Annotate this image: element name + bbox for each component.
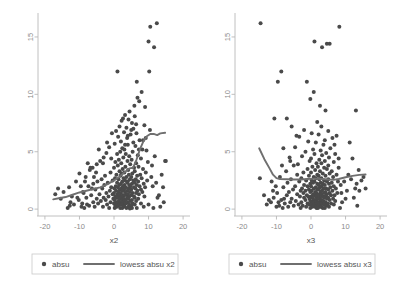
data-point [102,155,106,159]
data-point [306,139,310,143]
data-point [302,183,306,187]
data-point [330,136,334,140]
data-point [310,131,314,135]
data-point [95,162,99,166]
x-tick-label: -20 [236,222,247,231]
data-point [334,186,338,190]
data-point [280,164,284,168]
data-point [265,203,269,207]
data-point [323,183,327,187]
data-point [312,40,316,44]
data-point [309,170,313,174]
data-point [283,201,287,205]
data-point [344,197,348,201]
data-point [301,191,305,195]
data-point [281,185,285,189]
data-point [276,80,280,84]
data-point [126,134,130,138]
data-point [315,161,319,165]
data-point [332,203,336,207]
data-point [74,180,78,184]
data-point [349,177,353,181]
data-point [75,196,79,200]
panel-x2: 051015-20-1001020x2absulowess absu x2 [0,0,197,289]
data-point [109,170,113,174]
data-point [352,196,356,200]
data-point [357,168,361,172]
y-tick-label: 15 [224,33,233,41]
data-point [285,193,289,197]
data-point [306,167,310,171]
x-tick-label: -10 [271,222,282,231]
data-point [139,201,143,205]
data-point [123,143,127,147]
data-point [133,144,137,148]
data-point [285,116,289,120]
data-point [151,206,155,210]
data-point [316,165,320,169]
data-point [291,188,295,192]
data-point [310,165,314,169]
data-point [279,69,283,73]
data-point [124,126,128,130]
data-point [335,134,339,138]
data-point [348,141,352,145]
data-point [364,186,368,190]
data-point [119,139,123,143]
data-point [120,206,124,210]
data-point [340,200,344,204]
data-point [337,25,341,29]
data-point [137,99,141,103]
data-point [82,206,86,210]
data-point [304,205,308,209]
data-point [355,204,359,208]
data-point [302,128,306,132]
data-point [112,166,116,170]
data-point [345,189,349,193]
data-point [120,119,124,123]
x-tick-label: 20 [179,222,187,231]
data-point [296,162,300,166]
data-point [127,118,131,122]
data-point [143,105,147,109]
y-tick-label: 5 [224,150,233,154]
data-point [312,152,316,156]
data-point [274,205,278,209]
x-tick-label: 0 [112,222,116,231]
data-point [277,200,281,204]
data-point [114,173,118,177]
data-point [139,157,143,161]
data-point [324,151,328,155]
data-point [89,166,93,170]
y-tick-label: 0 [224,207,233,211]
data-point [133,114,137,118]
data-point [301,170,305,174]
data-point [303,150,307,154]
data-point [319,124,323,128]
data-point [286,205,290,209]
data-point [77,172,81,176]
data-point [136,180,140,184]
data-point [140,90,144,94]
data-point [138,184,142,188]
data-point [160,173,164,177]
data-point [315,120,319,124]
x-tick-label: 10 [341,222,349,231]
data-point [332,143,336,147]
data-point [101,205,105,209]
data-point [272,196,276,200]
y-tick-label: 10 [27,90,36,98]
data-point [116,164,120,168]
x-tick-label: 10 [144,222,152,231]
data-point [292,164,296,168]
data-point [84,175,88,179]
data-point [118,124,122,128]
data-point [122,130,126,134]
data-point [262,193,266,197]
data-point [147,40,151,44]
legend-marker-icon [42,262,46,266]
data-point [324,108,328,112]
figure-root: 051015-20-1001020x2absulowess absu x2 05… [0,0,394,289]
data-point [328,172,332,176]
data-point [284,169,288,173]
